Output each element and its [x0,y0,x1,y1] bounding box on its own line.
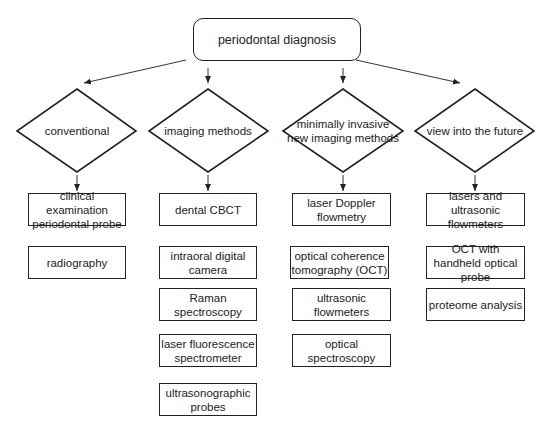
root-label: periodontal diagnosis [218,33,336,47]
category-label-imaging-methods: imaging methods [160,110,256,152]
item-box: OCT with handheld optical probe [426,246,525,279]
item-box: ultrasonographic probes [159,383,257,416]
arrow-root-to-future [356,60,460,83]
category-label-conventional: conventional [32,110,122,152]
item-box: intraoral digital camera [159,246,257,279]
item-box: ultrasonic flowmeters [292,288,391,321]
root-node: periodontal diagnosis [193,18,361,61]
item-box: lasers and ultrasonic flowmeters [426,193,525,226]
arrow-root-to-conventional [84,60,186,83]
item-box: clinical examination periodontal probe [28,193,126,226]
item-box: laser fluorescence spectrometer [159,334,257,367]
item-box: optical coherence tomography (OCT) [290,246,389,279]
category-label-view-into-future: view into the future [420,110,530,152]
item-box: Raman spectroscopy [159,288,257,321]
item-box: optical spectroscopy [292,334,391,367]
item-box: proteome analysis [426,288,525,321]
item-box: radiography [28,246,126,279]
category-label-minimally-invasive: minimally invasive new imaging methods [287,107,399,155]
item-box: laser Doppler flowmetry [292,193,391,226]
item-box: dental CBCT [159,193,257,226]
